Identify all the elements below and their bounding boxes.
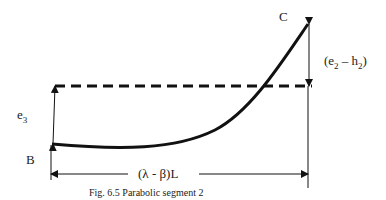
parabolic-segment-diagram: [0, 0, 386, 200]
figure-caption: Fig. 6.5 Parabolic segment 2: [89, 187, 203, 198]
e3-dimension-arrow: [53, 86, 55, 144]
point-b-label: B: [26, 153, 35, 166]
e2-h2-label: (e2 – h2): [324, 54, 367, 71]
point-c-label: C: [279, 10, 288, 23]
e3-label: e3: [17, 108, 27, 125]
span-label: (λ - β)L: [138, 167, 178, 180]
